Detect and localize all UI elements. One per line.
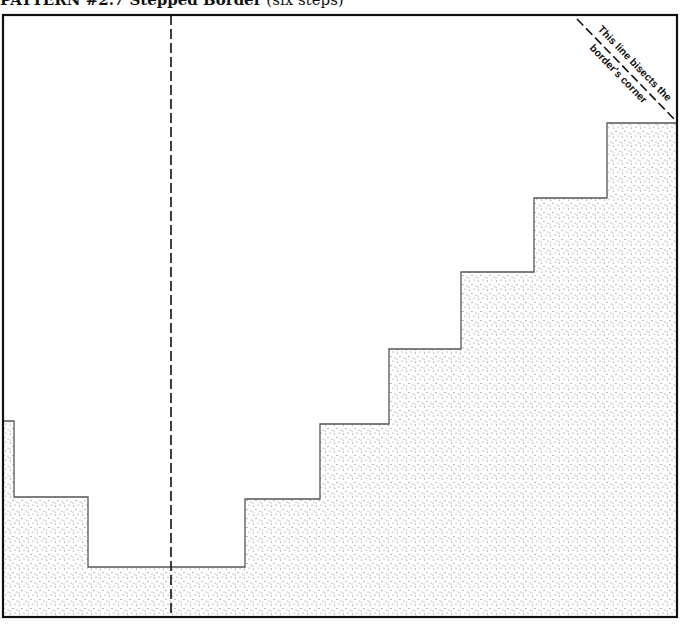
corner-bisector-dashed-line	[577, 19, 677, 122]
stepped-fill-region	[3, 123, 677, 617]
stepped-border-diagram: This line bisects the border's corner	[0, 0, 683, 629]
